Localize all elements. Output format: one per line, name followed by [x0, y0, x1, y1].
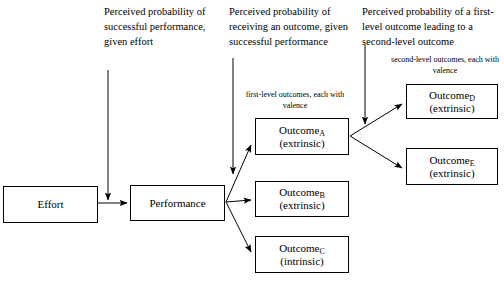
node-outcome-a-name: Outcome — [279, 124, 319, 136]
node-outcome-e-subscript: E — [470, 159, 475, 168]
node-outcome-b-sublabel: (extrinsic) — [279, 199, 324, 211]
node-performance[interactable]: Performance — [130, 185, 225, 221]
node-outcome-a-label: OutcomeA — [279, 124, 325, 137]
diagram-canvas: Perceived probability of successful perf… — [0, 0, 504, 282]
annotation-instrumentality-first: Perceived probability of receiving an ou… — [229, 5, 357, 50]
label-first-level-outcomes: first-level outcomes, each with valence — [236, 90, 354, 111]
node-outcome-c-name: Outcome — [279, 242, 319, 254]
node-outcome-c-label: OutcomeC — [279, 242, 325, 255]
arrow-outcome-a-to-outcome-d — [350, 104, 402, 136]
node-outcome-c-sublabel: (intrinsic) — [280, 255, 323, 267]
arrow-performance-to-outcome-a — [226, 145, 251, 202]
arrow-performance-to-outcome-b — [226, 200, 251, 202]
node-outcome-c-subscript: C — [319, 247, 324, 256]
node-outcome-e-name: Outcome — [429, 154, 469, 166]
annotation-expectancy: Perceived probability of successful perf… — [104, 5, 224, 50]
node-outcome-e[interactable]: OutcomeE (extrinsic) — [406, 148, 498, 185]
node-outcome-d-subscript: D — [469, 94, 475, 103]
node-outcome-b-subscript: B — [319, 191, 324, 200]
node-effort[interactable]: Effort — [3, 186, 98, 223]
node-outcome-d[interactable]: OutcomeD (extrinsic) — [406, 84, 498, 119]
node-outcome-d-label: OutcomeD — [429, 89, 475, 102]
arrow-performance-to-outcome-c — [226, 202, 251, 252]
label-second-level-outcomes: second-level outcomes, each with valence — [386, 55, 504, 76]
node-outcome-b[interactable]: OutcomeB (extrinsic) — [255, 181, 349, 217]
node-outcome-d-name: Outcome — [429, 89, 469, 101]
node-outcome-b-name: Outcome — [279, 186, 319, 198]
node-outcome-a-sublabel: (extrinsic) — [279, 137, 324, 149]
node-performance-label: Performance — [149, 197, 205, 209]
node-outcome-c[interactable]: OutcomeC (intrinsic) — [255, 236, 349, 273]
node-outcome-a-subscript: A — [319, 129, 325, 138]
arrow-outcome-a-to-outcome-e — [350, 136, 402, 168]
node-effort-label: Effort — [37, 198, 63, 210]
node-outcome-e-sublabel: (extrinsic) — [429, 167, 474, 179]
node-outcome-e-label: OutcomeE — [429, 154, 474, 167]
node-outcome-d-sublabel: (extrinsic) — [429, 102, 474, 114]
annotation-instrumentality-second: Perceived probability of a first-level o… — [362, 5, 502, 50]
node-outcome-b-label: OutcomeB — [279, 186, 325, 199]
node-outcome-a[interactable]: OutcomeA (extrinsic) — [255, 118, 349, 155]
